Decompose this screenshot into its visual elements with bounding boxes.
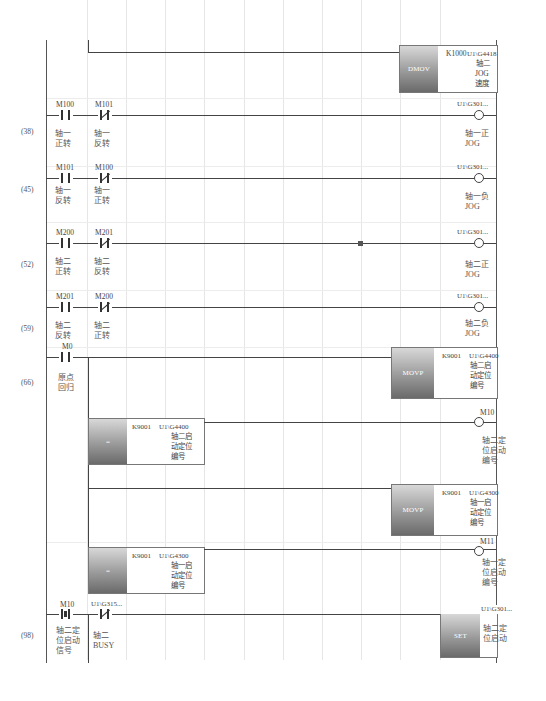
instruction-arg-source: K1000: [446, 49, 466, 59]
contact-comment-1: 轴一: [55, 186, 71, 196]
grid-line: [46, 166, 496, 167]
arg-comment-3: 编号: [171, 581, 185, 591]
contact-device: U1\G315...: [91, 600, 122, 609]
rung-wire: [204, 422, 496, 423]
contact-comment-2: 正转: [55, 267, 71, 277]
contact-nc-icon[interactable]: [98, 238, 112, 248]
contact-comment-1: 轴一: [94, 129, 110, 139]
contact-no-icon[interactable]: [59, 238, 73, 248]
contact-comment-2: 反转: [94, 139, 110, 149]
cursor-marker-icon: [358, 241, 363, 246]
contact-comment-1: 轴一: [94, 186, 110, 196]
contact-comment-2: BUSY: [93, 641, 114, 651]
contact-no-icon[interactable]: [59, 173, 73, 183]
grid-line: [46, 98, 496, 99]
dest-comment-2: 动定位: [470, 371, 491, 381]
contact-nc-icon[interactable]: [98, 609, 112, 619]
contact-no-icon[interactable]: [59, 352, 73, 362]
compare-equal[interactable]: = K9001 U1\G4300 轴一启 动定位 编号: [88, 547, 205, 594]
rung-wire: [46, 243, 496, 244]
set-comment-1: 轴二定: [483, 624, 507, 634]
contact-device: M200: [95, 292, 113, 301]
instruction-arg-dest: U1\G4418: [467, 49, 497, 59]
contact-no-icon[interactable]: [59, 110, 73, 120]
arg-comment-3: 编号: [171, 452, 185, 462]
dest-comment-1: 轴二启: [470, 361, 491, 371]
grid-line: [440, 0, 441, 660]
contact-comment-2: 正转: [94, 196, 110, 206]
coil-icon[interactable]: [474, 302, 484, 312]
coil-icon[interactable]: [474, 110, 484, 120]
contact-device: M200: [56, 228, 74, 237]
coil-comment-2: 位启动: [482, 568, 506, 578]
arg-comment-2: 动定位: [171, 442, 192, 452]
coil-icon[interactable]: [474, 417, 484, 427]
instruction-arg-source: K9001: [442, 488, 461, 498]
coil-icon[interactable]: [474, 546, 484, 556]
contact-device: M201: [95, 228, 113, 237]
instruction-arg-dest: U1\G4300: [469, 488, 499, 498]
contact-device: M10: [60, 600, 74, 609]
contact-comment-1: 轴二: [55, 321, 71, 331]
rung-wire: [46, 178, 496, 179]
coil-icon[interactable]: [474, 173, 484, 183]
contact-nc-icon[interactable]: [98, 173, 112, 183]
contact-device: M100: [56, 100, 74, 109]
rung-wire: [46, 357, 59, 358]
instruction-dmov[interactable]: DMOV K1000 U1\G4418 轴二 JOG 速度: [399, 45, 498, 93]
contact-comment-2: 回归: [58, 383, 74, 393]
grid-line: [46, 222, 496, 223]
coil-comment-1: 轴二定: [482, 436, 506, 446]
coil-comment-3: 编号: [482, 456, 498, 466]
instruction-arg-dest: U1\G4400: [469, 351, 499, 361]
coil-device: M10: [480, 408, 494, 417]
arg-comment-2: 动定位: [171, 571, 192, 581]
coil-comment-2: JOG: [465, 270, 480, 280]
compare-arg-2: U1\G4400: [159, 422, 189, 432]
step-number: (59): [21, 324, 34, 333]
instruction-op: =: [89, 419, 127, 464]
coil-comment-1: 轴一负: [465, 192, 489, 202]
contact-comment-1: 轴一: [55, 129, 71, 139]
dest-comment-3: 编号: [470, 518, 484, 528]
coil-comment-2: JOG: [465, 202, 480, 212]
step-number: (38): [21, 127, 34, 136]
contact-nc-icon[interactable]: [98, 110, 112, 120]
contact-device: M0: [62, 342, 72, 351]
rung-wire: [46, 115, 496, 116]
instruction-op: MOVP: [392, 348, 434, 398]
coil-comment-2: JOG: [465, 139, 480, 149]
contact-comment-2: 正转: [94, 331, 110, 341]
grid-line: [400, 0, 401, 660]
dest-comment-3: 编号: [470, 381, 484, 391]
contact-comment-1: 轴二: [94, 257, 110, 267]
compare-equal[interactable]: = K9001 U1\G4400 轴二启 动定位 编号: [88, 418, 205, 465]
contact-pulse-icon[interactable]: [59, 609, 73, 619]
left-power-rail: [46, 40, 47, 663]
instruction-op: MOVP: [392, 485, 434, 535]
instruction-movp[interactable]: MOVP K9001 U1\G4400 轴二启 动定位 编号: [391, 347, 498, 399]
step-number: (52): [21, 260, 34, 269]
instruction-op: SET: [441, 614, 480, 657]
instruction-op: =: [89, 548, 127, 593]
coil-icon[interactable]: [474, 238, 484, 248]
dest-comment-2: 动定位: [470, 508, 491, 518]
contact-device: M201: [56, 292, 74, 301]
contact-no-icon[interactable]: [59, 302, 73, 312]
set-comment-2: 位启动: [483, 634, 507, 644]
compare-arg-1: K9001: [132, 422, 151, 432]
coil-comment-1: 轴一正: [465, 129, 489, 139]
contact-comment-2: 正转: [55, 139, 71, 149]
instruction-movp[interactable]: MOVP K9001 U1\G4300 轴一启 动定位 编号: [391, 484, 498, 536]
instruction-arg-source: K9001: [442, 351, 461, 361]
rung-wire: [46, 614, 496, 615]
rung-wire: [46, 307, 496, 308]
arg-comment-1: 轴二启: [171, 432, 192, 442]
grid-line: [322, 0, 323, 660]
grid-line: [361, 0, 362, 660]
dest-comment-3: 速度: [475, 79, 489, 89]
contact-comment-2: 反转: [55, 196, 71, 206]
rung-wire: [88, 488, 391, 489]
contact-comment-1: 轴二: [94, 321, 110, 331]
contact-nc-icon[interactable]: [98, 302, 112, 312]
